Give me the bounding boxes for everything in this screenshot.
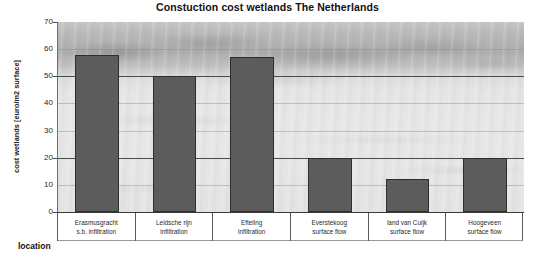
x-category-2-line-1: Leidsche rijn [156,220,192,227]
x-category-4: Everstekoogsurface flow [290,213,368,241]
y-tickmark-20 [53,158,57,159]
x-category-6: Hoogeveensurface flow [445,213,523,241]
y-tickmark-0 [53,212,57,213]
gridline-40 [58,103,524,104]
gridline-60 [58,49,524,50]
x-category-6-line-2: surface flow [468,229,502,236]
y-tick-label-70: 70 [31,18,53,26]
x-category-1-line-2: s.b. infiltration [77,229,116,236]
plot-area [57,22,524,213]
x-axis-title: location [18,241,51,251]
x-category-1: Erasmusgrachts.b. infiltration [57,213,135,241]
x-category-2-line-2: infiltration [160,229,187,236]
x-category-3-line-2: infiltration [238,229,265,236]
bar-1 [75,55,118,212]
y-axis-title: cost wetlands [euro/m2 surface] [12,27,21,207]
bar-6 [463,158,506,212]
chart-title: Constuction cost wetlands The Netherland… [0,1,535,13]
y-tick-label-60: 60 [31,45,53,53]
y-tickmark-50 [53,76,57,77]
x-category-5: land van Cuijksurface flow [368,213,446,241]
y-tick-label-30: 30 [31,127,53,135]
y-tickmark-70 [53,22,57,23]
gridline-50 [58,76,524,77]
background-photo-streaks [58,22,524,212]
x-category-5-line-2: surface flow [390,229,424,236]
y-tick-label-50: 50 [31,72,53,80]
gridline-10 [58,185,524,186]
y-tick-label-40: 40 [31,99,53,107]
x-category-6-line-1: Hoogeveen [468,220,501,227]
bar-5 [386,179,429,212]
x-category-1-line-1: Erasmusgracht [75,220,118,227]
x-axis-category-labels: Erasmusgrachts.b. infiltrationLeidsche r… [57,213,523,241]
y-axis-tick-labels: 010203040506070 [29,22,53,212]
y-tick-label-10: 10 [31,181,53,189]
x-category-3-line-1: Efteling [241,220,262,227]
gridline-20 [58,158,524,159]
bar-chart-figure: Constuction cost wetlands The Netherland… [0,0,535,257]
x-category-4-line-2: surface flow [312,229,346,236]
x-category-4-line-1: Everstekoog [312,220,348,227]
bar-2 [153,76,196,212]
background-photo-texture [58,22,524,212]
x-category-2: Leidsche rijninfiltration [135,213,213,241]
bar-3 [230,57,273,212]
x-category-3: Eftelinginfiltration [212,213,290,241]
y-tick-label-0: 0 [31,208,53,216]
y-tick-label-20: 20 [31,154,53,162]
bar-4 [308,158,351,212]
x-category-5-line-1: land van Cuijk [387,220,427,227]
gridline-30 [58,131,524,132]
